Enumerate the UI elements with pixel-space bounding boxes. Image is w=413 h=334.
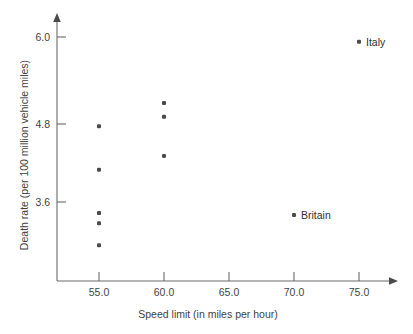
x-tick-label-70-0: 70.0 — [284, 286, 305, 298]
x-axis-title: Speed limit (in miles per hour) — [138, 308, 277, 320]
plot-canvas: 6.0 4.8 3.6 55.0 60.0 65.0 70.0 75.0 Spe… — [0, 0, 413, 334]
y-tick-label-3-6: 3.6 — [35, 196, 50, 208]
y-tick-label-6-0: 6.0 — [35, 31, 50, 43]
data-point — [97, 168, 101, 172]
data-point — [162, 115, 166, 119]
data-point — [162, 154, 166, 158]
point-label-group: ItalyBritain — [301, 36, 386, 221]
scatter-plot-figure: 6.0 4.8 3.6 55.0 60.0 65.0 70.0 75.0 Spe… — [0, 0, 413, 334]
data-point — [97, 211, 101, 215]
point-label-italy: Italy — [366, 36, 386, 48]
x-tick-label-75-0: 75.0 — [349, 286, 370, 298]
data-point — [97, 124, 101, 128]
x-tick-label-60-0: 60.0 — [154, 286, 175, 298]
data-point — [357, 40, 361, 44]
data-point — [162, 101, 166, 105]
x-axis-arrow-icon — [389, 277, 398, 285]
x-tick-label-55-0: 55.0 — [89, 286, 110, 298]
point-label-britain: Britain — [301, 209, 331, 221]
x-tick-label-65-0: 65.0 — [219, 286, 240, 298]
data-point — [97, 243, 101, 247]
data-point — [97, 221, 101, 225]
y-axis-title: Death rate (per 100 million vehicle mile… — [18, 60, 30, 250]
data-point — [292, 213, 296, 217]
y-tick-label-4-8: 4.8 — [35, 118, 50, 130]
y-axis-arrow-icon — [53, 13, 61, 22]
